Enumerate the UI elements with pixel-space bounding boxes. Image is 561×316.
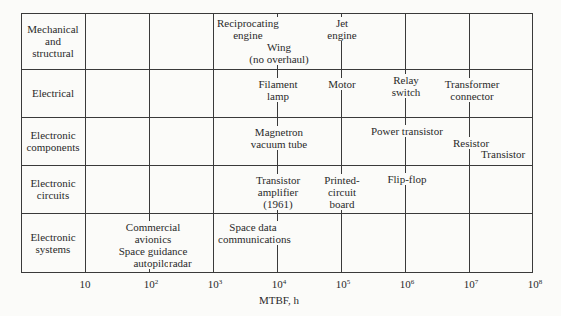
- row-label-mechanical: Mechanical and structural: [21, 13, 85, 69]
- item-jet-engine: Jet engine: [326, 17, 358, 41]
- item-power-transistor: Power transistor: [370, 125, 444, 137]
- row-label-electronic-circuits: Electronic circuits: [21, 165, 85, 213]
- x-tick: 103: [208, 278, 223, 290]
- item-printed-circuit-board: Printed- circuit board: [320, 174, 364, 210]
- x-axis-label: MTBF, h: [259, 294, 299, 306]
- x-tick: 10: [80, 278, 91, 290]
- item-radar: radar: [168, 257, 193, 269]
- x-tick: 105: [336, 278, 351, 290]
- row-label-electronic-components: Electronic components: [21, 117, 85, 165]
- item-space-data-communications: Space data communications: [217, 221, 289, 245]
- item-transistor-amplifier: Transistor amplifier (1961): [247, 174, 309, 210]
- item-filament-lamp: Filament lamp: [254, 78, 302, 102]
- x-tick: 108: [528, 278, 543, 290]
- gridline-10-3: [213, 13, 214, 273]
- x-tick: 106: [400, 278, 415, 290]
- item-transformer-connector: Transformer connector: [441, 78, 503, 102]
- x-tick: 104: [272, 278, 287, 290]
- item-transistor: Transistor: [480, 148, 526, 160]
- row-label-electronic-systems: Electronic systems: [21, 213, 85, 273]
- item-wing: Wing (no overhaul): [247, 41, 311, 65]
- gridline-10-6: [405, 13, 406, 273]
- item-reciprocating-engine: Reciprocating engine: [216, 17, 280, 41]
- x-tick: 102: [144, 278, 159, 290]
- gridline-10-5: [341, 13, 342, 273]
- item-relay-switch: Relay switch: [388, 74, 424, 98]
- x-tick: 107: [464, 278, 479, 290]
- item-magnetron-vacuum-tube: Magnetron vacuum tube: [247, 126, 311, 150]
- gridline-10: [85, 13, 86, 273]
- row-label-electrical: Electrical: [21, 69, 85, 117]
- item-flip-flop: Flip-flop: [385, 173, 429, 185]
- item-motor: Motor: [323, 78, 361, 90]
